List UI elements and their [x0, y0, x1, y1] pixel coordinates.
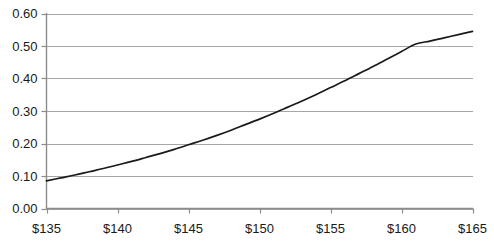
x-tick-label: $140 — [103, 221, 132, 236]
x-tick-label: $155 — [316, 221, 345, 236]
x-tick-label: $165 — [458, 221, 487, 236]
y-tick-label: 0.30 — [12, 104, 37, 119]
y-tick-label: 0.60 — [12, 6, 37, 21]
line-chart: 0.000.100.200.300.400.500.60 $135$140$14… — [0, 0, 494, 249]
x-tick-label: $160 — [387, 221, 416, 236]
y-tick-label: 0.40 — [12, 71, 37, 86]
y-tick-label: 0.20 — [12, 136, 37, 151]
y-tick-label: 0.50 — [12, 39, 37, 54]
x-tick-label: $150 — [245, 221, 274, 236]
x-tick-label: $145 — [174, 221, 203, 236]
chart-container: 0.000.100.200.300.400.500.60 $135$140$14… — [0, 0, 494, 249]
y-tick-label: 0.00 — [12, 201, 37, 216]
y-tick-label: 0.10 — [12, 169, 37, 184]
x-tick-label: $135 — [32, 221, 61, 236]
